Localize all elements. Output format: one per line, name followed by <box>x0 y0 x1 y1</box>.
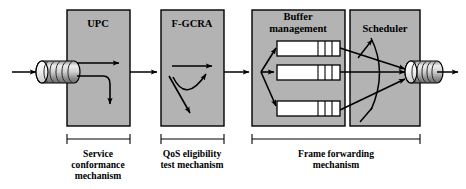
bracket-service-conformance-label-line3: mechanism <box>75 170 121 181</box>
block-buffer-management-label-line1: Buffer <box>283 11 312 22</box>
queue-1[interactable] <box>277 41 340 56</box>
queue-3[interactable] <box>277 101 340 116</box>
block-fgcra[interactable]: F-GCRA <box>161 10 224 126</box>
bracket-service-conformance: Service conformance mechanism <box>67 134 130 181</box>
input-cylinder <box>36 61 80 83</box>
bracket-frame-forwarding-label-line1: Frame forwarding <box>298 148 374 159</box>
block-buffer-management-label-line2: management <box>269 23 327 34</box>
frame-forwarding-diagram: UPC F-GCRA Buffer management Scheduler <box>0 0 466 189</box>
bracket-frame-forwarding-label-line2: mechanism <box>313 159 359 170</box>
bracket-service-conformance-label-line2: conformance <box>71 159 125 170</box>
bracket-qos-eligibility-label-line2: test mechanism <box>160 159 223 170</box>
block-fgcra-label: F-GCRA <box>172 18 213 29</box>
block-upc-label: UPC <box>87 18 109 29</box>
bracket-qos-eligibility-label-line1: QoS eligibility <box>163 148 222 159</box>
bracket-qos-eligibility: QoS eligibility test mechanism <box>160 134 224 170</box>
queue-2[interactable] <box>277 65 340 80</box>
bracket-frame-forwarding: Frame forwarding mechanism <box>252 134 420 170</box>
block-scheduler-label: Scheduler <box>363 23 408 34</box>
diagram-canvas: UPC F-GCRA Buffer management Scheduler <box>0 0 466 189</box>
bracket-service-conformance-label-line1: Service <box>83 148 114 159</box>
